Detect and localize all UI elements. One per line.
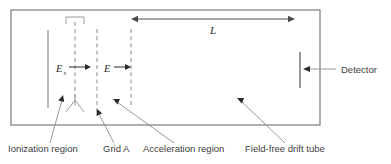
figure-canvas: E s E L Detector Ionization region Grid … bbox=[0, 0, 391, 164]
drift-length-arrowhead-right bbox=[288, 16, 295, 23]
grid-a-caption: Grid A bbox=[103, 143, 130, 154]
drift-length-arrowhead-left bbox=[131, 16, 138, 23]
drift-length-label: L bbox=[209, 24, 216, 36]
extraction-field-subscript: s bbox=[64, 69, 67, 76]
field-free-drift-tube-caption: Field-free drift tube bbox=[245, 143, 325, 154]
acceleration-region-caption: Acceleration region bbox=[143, 143, 224, 154]
tof-spectrometer-figure: E s E L Detector Ionization region Grid … bbox=[0, 0, 391, 164]
acceleration-region-leader-line bbox=[117, 102, 174, 143]
grid-a-leader-line bbox=[99, 114, 114, 143]
acceleration-field-label: E bbox=[103, 63, 111, 74]
detector-label: Detector bbox=[341, 64, 377, 75]
acceleration-field-arrowhead bbox=[125, 64, 131, 70]
field-free-drift-tube-leader-line bbox=[241, 101, 285, 143]
extraction-field-label: E bbox=[55, 63, 63, 74]
detector-leader-arrowhead bbox=[303, 66, 310, 72]
extraction-field-arrowhead bbox=[85, 64, 91, 70]
ionization-region-leader-arrowhead bbox=[58, 95, 64, 102]
ionization-region-caption: Ionization region bbox=[8, 143, 78, 154]
ionization-region-leader-line bbox=[50, 100, 62, 143]
